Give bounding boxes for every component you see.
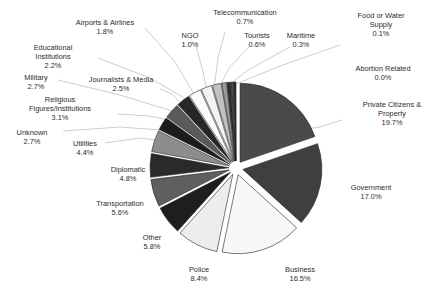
- slice-label: Military2.7%: [24, 73, 48, 91]
- slice-name: Transportation: [96, 199, 143, 208]
- slice-percent: 2.7%: [24, 137, 41, 146]
- slice-label: Other5.8%: [143, 233, 162, 251]
- slice-name: Telecommunication: [213, 8, 276, 17]
- slice-percent: 5.6%: [112, 208, 129, 217]
- slice-label: Maritime0.3%: [287, 31, 315, 49]
- slice-name: Tourists: [244, 31, 270, 40]
- slice-name: Government: [351, 183, 392, 192]
- slice-percent: 2.2%: [45, 61, 62, 70]
- slice-name: Religious: [45, 95, 76, 104]
- slice-label: Police8.4%: [189, 265, 209, 283]
- slice-name: NGO: [182, 31, 199, 40]
- slice-label: ReligiousFigures/Institutions3.1%: [29, 95, 91, 122]
- slice-percent: 0.3%: [293, 40, 310, 49]
- slice-percent: 8.4%: [191, 274, 208, 283]
- slice-percent: 0.1%: [373, 29, 390, 38]
- slice-name: Airports & Airlines: [76, 18, 135, 27]
- slice-percent: 3.1%: [52, 113, 69, 122]
- slice-percent: 1.0%: [182, 40, 199, 49]
- slice-percent: 4.8%: [120, 174, 137, 183]
- slice-name: Educational: [34, 43, 73, 52]
- slice-percent: 4.4%: [77, 148, 94, 157]
- slice-label: NGO1.0%: [182, 31, 199, 49]
- slice-name: Private Citizens &: [363, 100, 421, 109]
- slice-name: Food or Water: [358, 11, 405, 20]
- slice-label: Telecommunication0.7%: [213, 8, 276, 26]
- leader-line: [63, 127, 160, 131]
- slice-label: Abortion Related0.0%: [355, 64, 410, 82]
- slice-name: Unknown: [17, 128, 48, 137]
- leader-line: [231, 45, 340, 86]
- leader-line: [160, 89, 181, 104]
- slice-percent: 17.0%: [361, 192, 382, 201]
- slice-percent: 2.5%: [113, 84, 130, 93]
- slice-name: Journalists & Media: [89, 75, 154, 84]
- slice-percent: 2.7%: [28, 82, 45, 91]
- slice-name: Business: [285, 265, 315, 274]
- slice-name: Abortion Related: [355, 64, 410, 73]
- slice-percent: 0.6%: [249, 40, 266, 49]
- slice-name: Police: [189, 265, 209, 274]
- slice-label: Business16.5%: [285, 265, 315, 283]
- slice-name: Figures/Institutions: [29, 104, 91, 113]
- slice-percent: 0.0%: [375, 73, 392, 82]
- slice-label: Food or WaterSupply0.1%: [358, 11, 405, 38]
- slice-label: Diplomatic4.8%: [111, 165, 146, 183]
- leader-line: [226, 47, 290, 87]
- slice-name: Utilities: [73, 139, 97, 148]
- leader-line: [118, 114, 168, 120]
- slice-percent: 19.7%: [382, 118, 403, 127]
- slice-name: Supply: [370, 20, 393, 29]
- slice-name: Diplomatic: [111, 165, 146, 174]
- slice-percent: 5.8%: [144, 242, 161, 251]
- slice-percent: 1.8%: [97, 27, 114, 36]
- pie-slice-layer: [150, 82, 322, 254]
- slice-label: Government17.0%: [351, 183, 392, 201]
- slice-label: Unknown2.7%: [17, 128, 48, 146]
- slice-name: Military: [24, 73, 48, 82]
- slice-label: Transportation5.6%: [96, 199, 143, 217]
- slice-label: Tourists0.6%: [244, 31, 270, 49]
- attack-target-type-pie-chart: Private Citizens &Property19.7%Governmen…: [0, 0, 443, 307]
- slice-name: Property: [378, 109, 406, 118]
- slice-name: Other: [143, 233, 162, 242]
- slice-name: Maritime: [287, 31, 315, 40]
- slice-label: Airports & Airlines1.8%: [76, 18, 135, 36]
- slice-label: Journalists & Media2.5%: [89, 75, 154, 93]
- slice-percent: 16.5%: [290, 274, 311, 283]
- pie-chart-page: Private Citizens &Property19.7%Governmen…: [0, 0, 443, 307]
- slice-label: EducationalInstitutions2.2%: [34, 43, 73, 70]
- slice-percent: 0.7%: [237, 17, 254, 26]
- slice-label: Utilities4.4%: [73, 139, 97, 157]
- slice-name: Institutions: [35, 52, 71, 61]
- slice-label: Private Citizens &Property19.7%: [363, 100, 421, 127]
- leader-line: [196, 46, 207, 90]
